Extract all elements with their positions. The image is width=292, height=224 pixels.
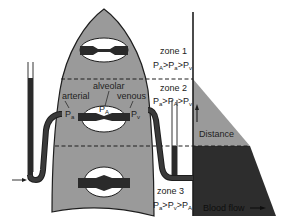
- zone2-relation: Pa>PA>Pv: [153, 96, 192, 107]
- zone2-label: zone 2 Pa>PA>Pv: [153, 83, 192, 107]
- distance-label: Distance: [199, 129, 234, 139]
- venous-blood-column: [172, 146, 177, 178]
- zone3-relation: Pa>Pv>PA: [153, 200, 192, 211]
- zone1-label: zone 1 PA>Pa>Pv: [153, 46, 192, 71]
- zone1-capillary: [80, 38, 128, 62]
- alveolar-label: alveolar: [93, 81, 125, 91]
- arterial-inflow-arrowhead-icon: [22, 178, 27, 182]
- arterial-label: arterial: [62, 91, 90, 101]
- blood-flow-label: Blood flow: [203, 203, 245, 213]
- zone1-title: zone 1: [160, 46, 187, 56]
- zone3-label: zone 3 Pa>Pv>PA: [153, 186, 192, 211]
- venous-manometer: [148, 100, 193, 178]
- zone2-title: zone 2: [160, 83, 187, 93]
- venous-vessel-fill: [148, 110, 193, 178]
- zone3-title: zone 3: [157, 186, 184, 196]
- venous-label: venous: [117, 91, 147, 101]
- west-zones-diagram: Distance Blood flow: [0, 0, 292, 224]
- arterial-blood-column: [28, 78, 33, 176]
- zone1-relation: PA>Pa>Pv: [153, 60, 192, 71]
- blood-flow-graph: Distance Blood flow: [193, 12, 276, 216]
